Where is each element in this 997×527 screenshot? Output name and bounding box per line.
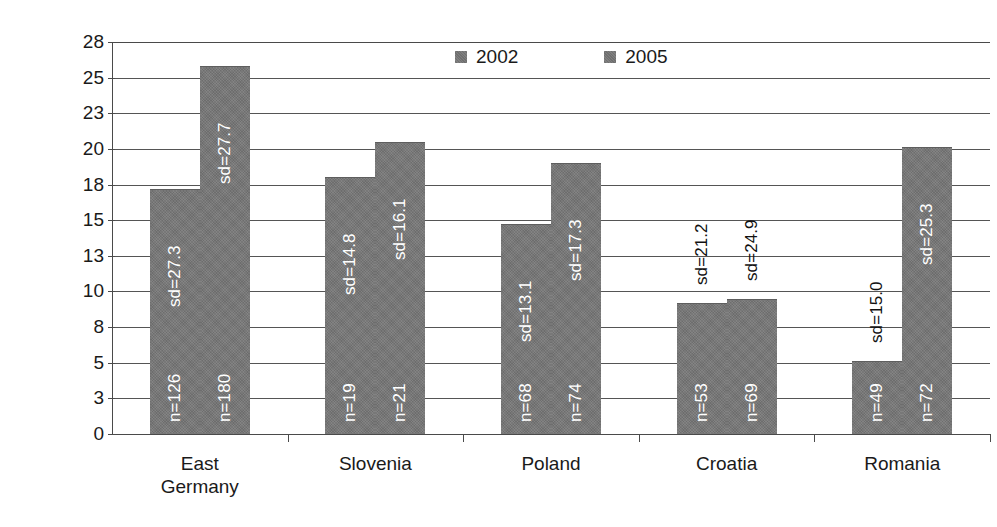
bar-sd-label: sd=27.3 (166, 207, 183, 307)
x-axis-label-croatia: Croatia (639, 452, 815, 475)
y-axis-tick-mark (108, 42, 115, 43)
y-axis-tick-label: 5 (64, 353, 104, 372)
y-axis-tick-label: 8 (64, 317, 104, 336)
y-axis-tick-label: 13 (64, 246, 104, 265)
y-axis-tick-label: 20 (64, 139, 104, 158)
bar-sd-label: sd=14.8 (341, 195, 358, 295)
legend-label: 2002 (476, 47, 518, 66)
legend-swatch-icon (604, 51, 616, 63)
bar-n-label: n=53 (693, 342, 710, 422)
y-axis-tick-mark (108, 78, 115, 79)
bar-sd-label: sd=13.1 (517, 242, 534, 342)
bar-sd-label: sd=15.0 (868, 243, 885, 343)
bar-n-label: n=180 (216, 342, 233, 422)
bar-sd-label: sd=17.3 (567, 181, 584, 281)
chart-legend: 20022005 (455, 47, 668, 66)
x-axis-tick-mark (814, 434, 815, 442)
y-axis-tick-label: 25 (64, 68, 104, 87)
bar-n-label: n=69 (743, 342, 760, 422)
bar-sd-label: sd=24.9 (743, 181, 760, 281)
bar-n-label: n=72 (918, 342, 935, 422)
plot-area: sd=27.3n=126sd=27.7n=180sd=14.8n=19sd=16… (112, 42, 990, 434)
y-axis-tick-mark (108, 398, 115, 399)
x-axis-label-poland: Poland (463, 452, 639, 475)
y-axis-tick-label: 23 (64, 103, 104, 122)
y-axis-tick-label: 18 (64, 175, 104, 194)
bar-n-label: n=126 (166, 342, 183, 422)
y-axis-tick-label: 28 (64, 32, 104, 51)
bar-n-label: n=21 (391, 342, 408, 422)
x-axis-label-east-germany: East Germany (112, 452, 288, 498)
bar-chart: 03581013151820232528 sd=27.3n=126sd=27.7… (0, 0, 997, 527)
y-axis-tick-label: 10 (64, 281, 104, 300)
bar-sd-label: sd=25.3 (918, 165, 935, 265)
y-axis-tick-mark (108, 220, 115, 221)
legend-item-2002[interactable]: 2002 (455, 47, 518, 66)
bar-sd-label: sd=27.7 (216, 84, 233, 184)
x-axis-tick-mark (639, 434, 640, 442)
y-axis-tick-mark (108, 327, 115, 328)
bar-sd-label: sd=16.1 (391, 160, 408, 260)
legend-swatch-icon (455, 51, 467, 63)
y-axis-tick-mark (108, 291, 115, 292)
y-axis-tick-mark (108, 363, 115, 364)
y-axis-tick-label: 0 (64, 424, 104, 443)
bar-sd-label: sd=21.2 (693, 185, 710, 285)
legend-item-2005[interactable]: 2005 (604, 47, 667, 66)
y-axis-tick-mark (108, 185, 115, 186)
y-axis-tick-labels: 03581013151820232528 (20, 0, 104, 527)
x-axis-tick-mark (288, 434, 289, 442)
x-axis-label-slovenia: Slovenia (288, 452, 464, 475)
y-axis-tick-label: 15 (64, 210, 104, 229)
y-axis-tick-mark (108, 434, 115, 435)
legend-label: 2005 (625, 47, 667, 66)
bar-n-label: n=19 (341, 342, 358, 422)
bar-n-label: n=49 (868, 342, 885, 422)
y-axis-tick-mark (108, 149, 115, 150)
x-axis-line (112, 434, 990, 435)
x-axis-tick-mark (463, 434, 464, 442)
y-axis-tick-mark (108, 113, 115, 114)
x-axis-tick-mark (990, 434, 991, 442)
bar-n-label: n=68 (517, 342, 534, 422)
bar-n-label: n=74 (567, 342, 584, 422)
gridline (112, 42, 990, 43)
y-axis-tick-mark (108, 256, 115, 257)
y-axis-line (112, 42, 113, 435)
y-axis-tick-label: 3 (64, 388, 104, 407)
x-axis-label-romania: Romania (814, 452, 990, 475)
